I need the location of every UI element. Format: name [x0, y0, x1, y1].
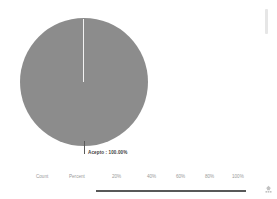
legend-label-count: Count	[36, 174, 48, 179]
axis-tick-80: 80%	[205, 174, 214, 179]
axis-tick-40: 40%	[147, 174, 156, 179]
axis-tick-20: 20%	[112, 174, 121, 179]
percent-bar	[96, 190, 246, 192]
page-root: Acepto : 100.00% Count Percent 20% 40% 6…	[0, 0, 277, 199]
axis-tick-100: 100%	[232, 174, 244, 179]
pie-slice-label: Acepto : 100.00%	[88, 150, 127, 155]
axis-tick-60: 60%	[176, 174, 185, 179]
legend-label-percent: Percent	[69, 174, 85, 179]
pie-chart: Acepto : 100.00%	[0, 0, 277, 168]
pie-label-leader-line	[84, 141, 85, 154]
resize-grip-icon[interactable]	[264, 185, 273, 194]
pie-slice-separator	[83, 19, 84, 82]
chart-axis-row: Count Percent 20% 40% 60% 80% 100%	[0, 174, 277, 184]
vertical-scrollbar[interactable]	[265, 9, 268, 34]
pie-slice-acepto[interactable]	[20, 18, 148, 146]
